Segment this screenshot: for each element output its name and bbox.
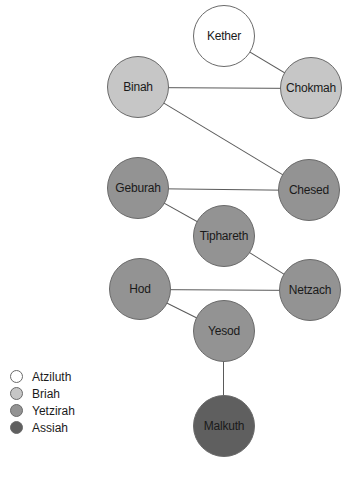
node-label: Chokmah	[286, 81, 336, 95]
node-tiphareth: Tiphareth	[193, 205, 255, 267]
legend-swatch-icon	[10, 404, 23, 417]
legend-swatch-icon	[10, 387, 23, 400]
legend-swatch-icon	[10, 370, 23, 383]
node-label: Yesod	[208, 324, 240, 338]
node-label: Kether	[207, 29, 241, 43]
legend-label: Yetzirah	[32, 404, 75, 418]
legend-item-assiah: Assiah	[10, 419, 75, 436]
node-label: Geburah	[115, 181, 160, 195]
node-netzach: Netzach	[279, 259, 341, 321]
node-hod: Hod	[109, 258, 171, 320]
node-label: Hod	[129, 282, 150, 296]
node-chokmah: Chokmah	[280, 57, 342, 119]
legend-item-yetzirah: Yetzirah	[10, 402, 75, 419]
node-geburah: Geburah	[107, 157, 169, 219]
node-binah: Binah	[107, 56, 169, 118]
node-label: Binah	[123, 80, 153, 94]
node-label: Chesed	[289, 183, 329, 197]
legend-swatch-icon	[10, 421, 23, 434]
node-chesed: Chesed	[278, 159, 340, 221]
legend-label: Briah	[32, 387, 60, 401]
node-label: Tiphareth	[200, 229, 248, 243]
legend-item-briah: Briah	[10, 385, 75, 402]
node-malkuth: Malkuth	[193, 395, 255, 457]
node-yesod: Yesod	[193, 300, 255, 362]
legend-item-atziluth: Atziluth	[10, 368, 75, 385]
node-label: Malkuth	[204, 419, 245, 433]
legend-label: Atziluth	[32, 370, 71, 384]
node-label: Netzach	[289, 283, 332, 297]
legend-label: Assiah	[32, 421, 68, 435]
node-kether: Kether	[193, 5, 255, 67]
tree-of-life-diagram: KetherBinahChokmahGeburahChesedTiphareth…	[0, 0, 352, 478]
legend: AtziluthBriahYetzirahAssiah	[10, 368, 75, 436]
